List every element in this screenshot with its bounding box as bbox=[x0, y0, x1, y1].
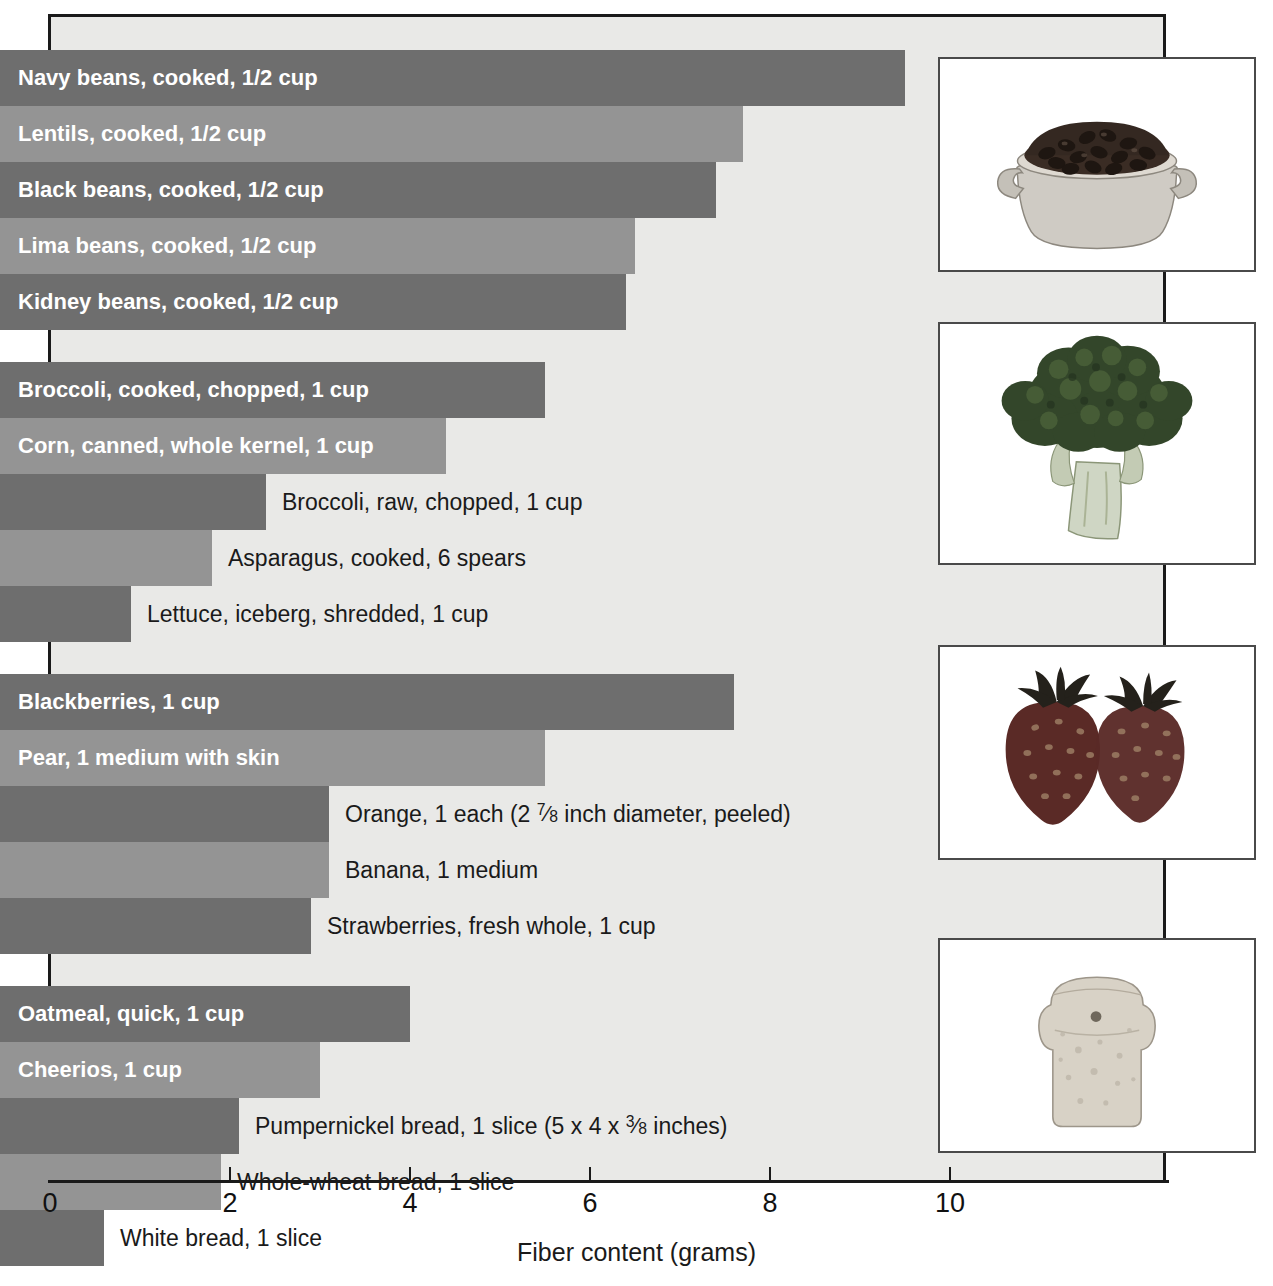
bar-label: Lettuce, iceberg, shredded, 1 cup bbox=[147, 601, 488, 628]
bar bbox=[0, 586, 131, 642]
x-tick-label-10: 10 bbox=[935, 1188, 965, 1219]
broccoli-photo bbox=[938, 322, 1256, 565]
beans-in-pot-photo bbox=[938, 57, 1256, 272]
bar bbox=[0, 474, 266, 530]
bar-label: Black beans, cooked, 1/2 cup bbox=[0, 177, 324, 203]
bar bbox=[0, 842, 329, 898]
bar: Kidney beans, cooked, 1/2 cup bbox=[0, 274, 626, 330]
bar-label: Orange, 1 each (2 7⁄8 inch diameter, pee… bbox=[345, 801, 791, 828]
bar: Lentils, cooked, 1/2 cup bbox=[0, 106, 743, 162]
bar-label: Broccoli, cooked, chopped, 1 cup bbox=[0, 377, 369, 403]
bar: Corn, canned, whole kernel, 1 cup bbox=[0, 418, 446, 474]
x-axis-line bbox=[48, 1180, 1169, 1183]
bar-label: Navy beans, cooked, 1/2 cup bbox=[0, 65, 318, 91]
x-tick-6 bbox=[589, 1167, 591, 1181]
bar: Pear, 1 medium with skin bbox=[0, 730, 545, 786]
bread-slice-photo bbox=[938, 938, 1256, 1153]
fiber-content-chart: Legumes Vegetables Fruits Breads Navy be… bbox=[0, 0, 1273, 1286]
bar: Broccoli, cooked, chopped, 1 cup bbox=[0, 362, 545, 418]
x-tick-label-2: 2 bbox=[222, 1188, 237, 1219]
bar-label: Banana, 1 medium bbox=[345, 857, 538, 884]
x-tick-4 bbox=[409, 1167, 411, 1181]
bar-label: Lentils, cooked, 1/2 cup bbox=[0, 121, 266, 147]
bar-label: Cheerios, 1 cup bbox=[0, 1057, 182, 1083]
bar-label: Oatmeal, quick, 1 cup bbox=[0, 1001, 244, 1027]
bar: Oatmeal, quick, 1 cup bbox=[0, 986, 410, 1042]
bar-label: Kidney beans, cooked, 1/2 cup bbox=[0, 289, 338, 315]
x-tick-label-0: 0 bbox=[42, 1188, 57, 1219]
bar bbox=[0, 898, 311, 954]
bar: Cheerios, 1 cup bbox=[0, 1042, 320, 1098]
strawberries-photo bbox=[938, 645, 1256, 860]
bar-label: Broccoli, raw, chopped, 1 cup bbox=[282, 489, 582, 516]
bar-label: Lima beans, cooked, 1/2 cup bbox=[0, 233, 316, 259]
x-tick-label-8: 8 bbox=[762, 1188, 777, 1219]
x-tick-8 bbox=[769, 1167, 771, 1181]
bar: Lima beans, cooked, 1/2 cup bbox=[0, 218, 635, 274]
bar-label: Strawberries, fresh whole, 1 cup bbox=[327, 913, 656, 940]
x-tick-10 bbox=[949, 1167, 951, 1181]
x-axis-title: Fiber content (grams) bbox=[0, 1238, 1273, 1267]
bar-label: Pumpernickel bread, 1 slice (5 x 4 x 3⁄8… bbox=[255, 1113, 727, 1140]
x-tick-label-6: 6 bbox=[582, 1188, 597, 1219]
bar bbox=[0, 1098, 239, 1154]
bar-label: Corn, canned, whole kernel, 1 cup bbox=[0, 433, 374, 459]
bar-label: Blackberries, 1 cup bbox=[0, 689, 220, 715]
x-tick-label-4: 4 bbox=[402, 1188, 417, 1219]
bar-label: Asparagus, cooked, 6 spears bbox=[228, 545, 526, 572]
bar bbox=[0, 530, 212, 586]
bar: Navy beans, cooked, 1/2 cup bbox=[0, 50, 905, 106]
bar: Blackberries, 1 cup bbox=[0, 674, 734, 730]
x-tick-2 bbox=[229, 1167, 231, 1181]
bar: Black beans, cooked, 1/2 cup bbox=[0, 162, 716, 218]
bar bbox=[0, 786, 329, 842]
bar-label: Pear, 1 medium with skin bbox=[0, 745, 280, 771]
